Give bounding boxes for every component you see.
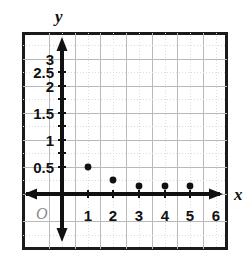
x-tick-label-4: 4 — [161, 208, 169, 223]
y-tick-label-3: 3 — [8, 52, 54, 67]
y-tick-label-1-5: 1.5 — [8, 106, 54, 121]
x-tick-label-2: 2 — [109, 208, 117, 223]
x-tick-label-1: 1 — [84, 208, 92, 223]
coordinate-plane-figure: 0.5 1 1.5 2 2.5 3 1 2 3 4 5 6 O y x — [0, 0, 252, 262]
x-axis-name: x — [234, 186, 243, 203]
y-tick-label-0-5: 0.5 — [8, 160, 54, 175]
y-axis-name: y — [55, 8, 63, 25]
y-tick-label-1: 1 — [8, 133, 54, 148]
y-tick-label-2: 2 — [8, 79, 54, 94]
x-tick-label-5: 5 — [186, 208, 194, 223]
origin-label: O — [36, 206, 48, 222]
x-tick-label-3: 3 — [135, 208, 143, 223]
x-tick-label-6: 6 — [212, 208, 220, 223]
